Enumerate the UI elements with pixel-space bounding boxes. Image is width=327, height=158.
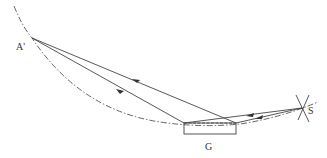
label-grating: G [205, 141, 212, 152]
label-source: S [308, 105, 314, 116]
ray-source-left [184, 108, 302, 123]
label-image-point: A' [16, 41, 25, 52]
ray-lower [32, 38, 184, 123]
arrow-icon [255, 115, 263, 119]
grating-box [184, 123, 236, 134]
arrow-icon [116, 89, 124, 94]
focal-arc [14, 6, 318, 126]
optics-diagram: A' G S [0, 0, 327, 158]
